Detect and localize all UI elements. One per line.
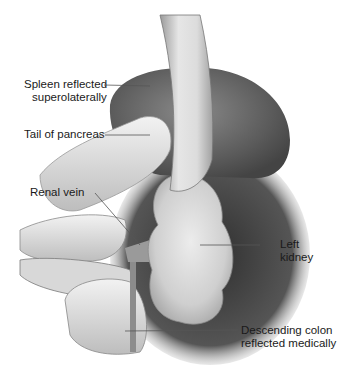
label-kidney-line1: Left bbox=[280, 238, 313, 251]
label-colon: Descending colon reflected medically bbox=[241, 324, 336, 350]
label-spleen: Spleen reflected superolaterally bbox=[24, 78, 107, 104]
label-pancreas: Tail of pancreas bbox=[24, 128, 105, 141]
label-kidney-line2: kidney bbox=[280, 251, 313, 264]
bowel-loop-upper bbox=[20, 215, 126, 262]
label-kidney: Left kidney bbox=[280, 238, 313, 264]
label-renal-vein: Renal vein bbox=[30, 186, 84, 199]
label-colon-line1: Descending colon bbox=[241, 324, 336, 337]
anatomical-illustration: Spleen reflected superolaterally Tail of… bbox=[0, 0, 347, 371]
label-spleen-line2: superolaterally bbox=[24, 91, 107, 104]
ureter bbox=[130, 262, 136, 352]
label-renal-vein-line1: Renal vein bbox=[30, 186, 84, 199]
label-pancreas-line1: Tail of pancreas bbox=[24, 128, 105, 141]
label-colon-line2: reflected medically bbox=[241, 337, 336, 350]
label-spleen-line1: Spleen reflected bbox=[24, 78, 107, 91]
